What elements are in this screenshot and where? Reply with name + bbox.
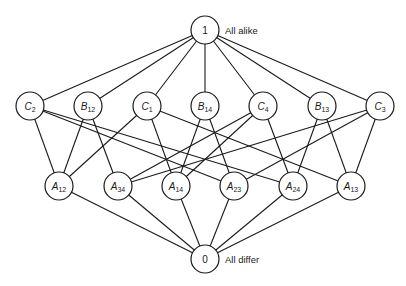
edge-1-C2 xyxy=(30,30,205,106)
node-B13: B13 xyxy=(308,92,336,120)
node-B14: B14 xyxy=(191,92,219,120)
node-label: 1 xyxy=(202,25,208,36)
edge-C3-A34 xyxy=(118,106,380,186)
node-A34: A34 xyxy=(104,172,132,200)
node-0: 0 xyxy=(191,245,219,273)
node-C4: C4 xyxy=(249,92,277,120)
edge-1-C3 xyxy=(205,30,380,106)
node-A23: A23 xyxy=(220,172,248,200)
edges-layer xyxy=(30,30,380,259)
bottom-annotation: All differ xyxy=(225,254,259,265)
edge-C1-A12 xyxy=(59,106,147,186)
top-annotation: All alike xyxy=(225,25,258,36)
node-label: 0 xyxy=(202,254,208,265)
edge-A24-0 xyxy=(205,186,293,259)
node-C3: C3 xyxy=(366,92,394,120)
node-B12: B12 xyxy=(74,92,102,120)
node-A24: A24 xyxy=(279,172,307,200)
node-1: 1 xyxy=(191,16,219,44)
node-A13: A13 xyxy=(337,172,365,200)
node-A14: A14 xyxy=(162,172,190,200)
node-A12: A12 xyxy=(45,172,73,200)
lattice-diagram: 1C2B12C1B14C4B13C3A12A34A14A23A24A130 Al… xyxy=(0,0,406,286)
node-C2: C2 xyxy=(16,92,44,120)
node-C1: C1 xyxy=(133,92,161,120)
